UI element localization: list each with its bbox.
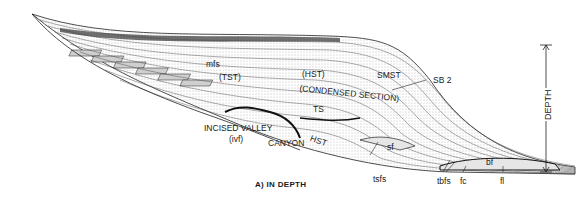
label-sf: sf bbox=[387, 143, 394, 152]
figure-caption: A) IN DEPTH bbox=[255, 181, 306, 189]
label-tst: (TST) bbox=[219, 73, 241, 82]
sequence-stratigraphy-diagram bbox=[0, 0, 585, 198]
label-ts: TS bbox=[313, 105, 324, 114]
label-hst-upper: (HST) bbox=[302, 70, 325, 79]
label-incised-valley: INCISED VALLEY bbox=[204, 124, 272, 133]
label-mfs: mfs bbox=[206, 60, 220, 69]
label-depth-axis: DEPTH bbox=[544, 88, 553, 121]
label-fc: fc bbox=[460, 177, 467, 186]
label-ivf: (ivf) bbox=[229, 135, 243, 144]
label-sb2: SB 2 bbox=[433, 76, 451, 85]
label-bf: bf bbox=[486, 158, 493, 167]
label-tsfs: tsfs bbox=[373, 175, 386, 184]
stratigraphic-wedge bbox=[32, 14, 575, 174]
label-tbfs: tbfs bbox=[437, 177, 451, 186]
label-fl: fl bbox=[500, 177, 504, 186]
label-smst: SMST bbox=[377, 71, 401, 80]
label-canyon: CANYON bbox=[268, 139, 304, 148]
